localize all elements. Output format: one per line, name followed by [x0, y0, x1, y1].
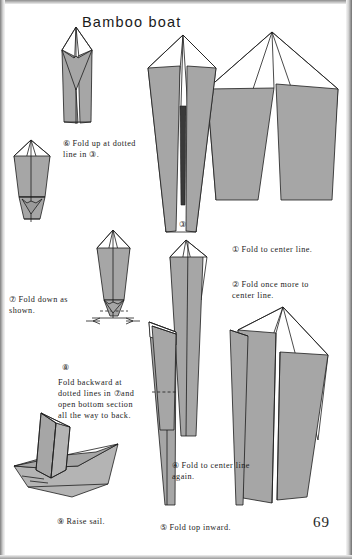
step-label-4: Fold to center line again. [172, 461, 250, 481]
caption-step-6: ⑥Fold up at dotted line in ③. [63, 127, 169, 160]
figure-step-9-boat [14, 413, 118, 497]
caption-step-5: ⑤Fold top inward. [160, 511, 270, 533]
caption-step-7: ⑦Fold down as shown. [9, 283, 109, 316]
figure-step-6-up-fold [62, 27, 92, 124]
step-label-1: Fold to center line. [241, 245, 312, 254]
step-marker-4: ④ [172, 461, 179, 470]
step-marker-9: ⑨ [57, 517, 64, 526]
figure-step-4-folded [170, 240, 207, 436]
step-marker-5: ⑤ [160, 523, 167, 532]
page-title: Bamboo boat [82, 14, 181, 30]
caption-step-1: ①Fold to center line. [232, 233, 344, 255]
step-marker-1: ① [232, 245, 239, 254]
page-number: 69 [313, 514, 330, 531]
origami-instruction-page: Bamboo boat .p { fill:#a6a6a6; stroke:#1… [0, 0, 352, 559]
page-edge-bottom [0, 555, 352, 559]
caption-step-9: ⑨Raise sail. [57, 505, 105, 527]
caption-step-3-marker: ③ [179, 208, 188, 230]
step-marker-7: ⑦ [9, 295, 16, 304]
caption-step-4: ④Fold to center line again. [172, 449, 284, 482]
step-label-9: Raise sail. [66, 517, 105, 526]
step-label-6: Fold up at dotted line in ③. [63, 139, 136, 159]
caption-step-8-body: Fold backward at dotted lines in ⑦and op… [58, 366, 162, 421]
step-marker-2: ② [232, 280, 239, 289]
page-edge-top [0, 0, 352, 4]
step-marker-3: ③ [179, 220, 186, 229]
page-edge-right [346, 0, 352, 559]
step-label-2: Fold once more to center line. [232, 280, 309, 300]
step-label-7: Fold down as shown. [9, 295, 68, 315]
step-label-5: Fold top inward. [169, 523, 231, 532]
caption-step-2: ②Fold once more to center line. [232, 268, 344, 301]
step-label-8: Fold backward at dotted lines in ⑦and op… [58, 378, 134, 420]
page-edge-left [0, 0, 5, 559]
figure-step-1-kite [207, 32, 338, 200]
figure-step-7-fold-down [14, 140, 50, 222]
step-marker-6: ⑥ [63, 139, 70, 148]
